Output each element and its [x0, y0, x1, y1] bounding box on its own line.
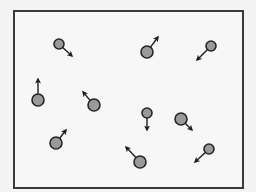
diagram-canvas	[0, 0, 256, 192]
particle-ball	[88, 99, 100, 111]
gas-particle-diagram	[0, 0, 256, 192]
particle-ball	[142, 108, 152, 118]
particle-ball	[54, 39, 64, 49]
container-box	[14, 11, 243, 188]
particle-ball	[175, 113, 187, 125]
particle-ball	[204, 144, 214, 154]
particle-ball	[206, 41, 216, 51]
particle-ball	[32, 94, 44, 106]
particle-ball	[141, 46, 153, 58]
particle-ball	[50, 137, 62, 149]
particle-ball	[134, 156, 146, 168]
